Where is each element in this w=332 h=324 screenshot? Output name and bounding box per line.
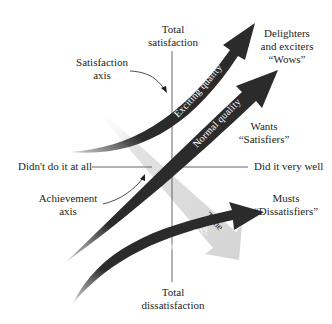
wants-outcome-label: Wants “Satisfiers”: [230, 120, 298, 146]
didnt-do-it-at-all-label: Didn't do it at all: [18, 160, 92, 173]
satisfaction-axis-callout: Satisfaction axis: [72, 56, 132, 82]
total-dissatisfaction-label: Total dissatisfaction: [140, 286, 206, 312]
total-satisfaction-label: Total satisfaction: [148, 23, 198, 49]
achievement-axis-callout: Achievement axis: [36, 192, 100, 218]
musts-outcome-label: Musts “Dissatisfiers”: [250, 192, 322, 218]
exciting-quality-label: Exciting quality: [172, 62, 225, 120]
kano-diagram: Time Expected quality Normal quality: [0, 0, 332, 324]
delighters-outcome-label: Delighters and exciters “Wows”: [255, 27, 319, 66]
did-it-very-well-label: Did it very well: [254, 160, 323, 173]
satisfaction-axis-callout-arrow: [130, 71, 165, 90]
